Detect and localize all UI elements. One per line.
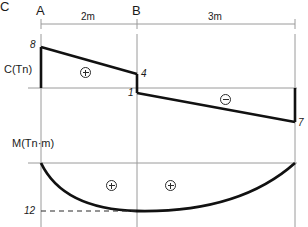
- node-label-b: B: [132, 4, 141, 17]
- shear-region-bc-sign-icon: [220, 94, 231, 105]
- shear-axis-title: C(Tn): [4, 64, 32, 75]
- shear-region-ab-sign-icon: [80, 67, 91, 78]
- moment-region-bc-sign-icon: [165, 180, 176, 191]
- moment-region-ab-sign-icon: [106, 180, 117, 191]
- node-label-a: A: [36, 4, 45, 17]
- shear-value-at-b-right: 1: [128, 88, 134, 98]
- node-label-c: C: [0, 0, 9, 13]
- moment-axis-title: M(Tn·m): [12, 138, 54, 149]
- shear-value-at-c: 7: [298, 118, 304, 128]
- beam-diagram: A B C 2m 3m C(Tn) 8 4 1 7 M(Tn·m) 12: [0, 0, 308, 227]
- span-label-bc: 3m: [208, 12, 222, 22]
- shear-value-at-a: 8: [30, 40, 36, 50]
- shear-curve: [41, 47, 295, 122]
- diagram-canvas: [0, 0, 308, 227]
- dimension-line-group: [41, 19, 295, 29]
- moment-max-value: 12: [24, 206, 35, 216]
- span-label-ab: 2m: [81, 12, 95, 22]
- shear-value-at-b-left: 4: [141, 69, 147, 79]
